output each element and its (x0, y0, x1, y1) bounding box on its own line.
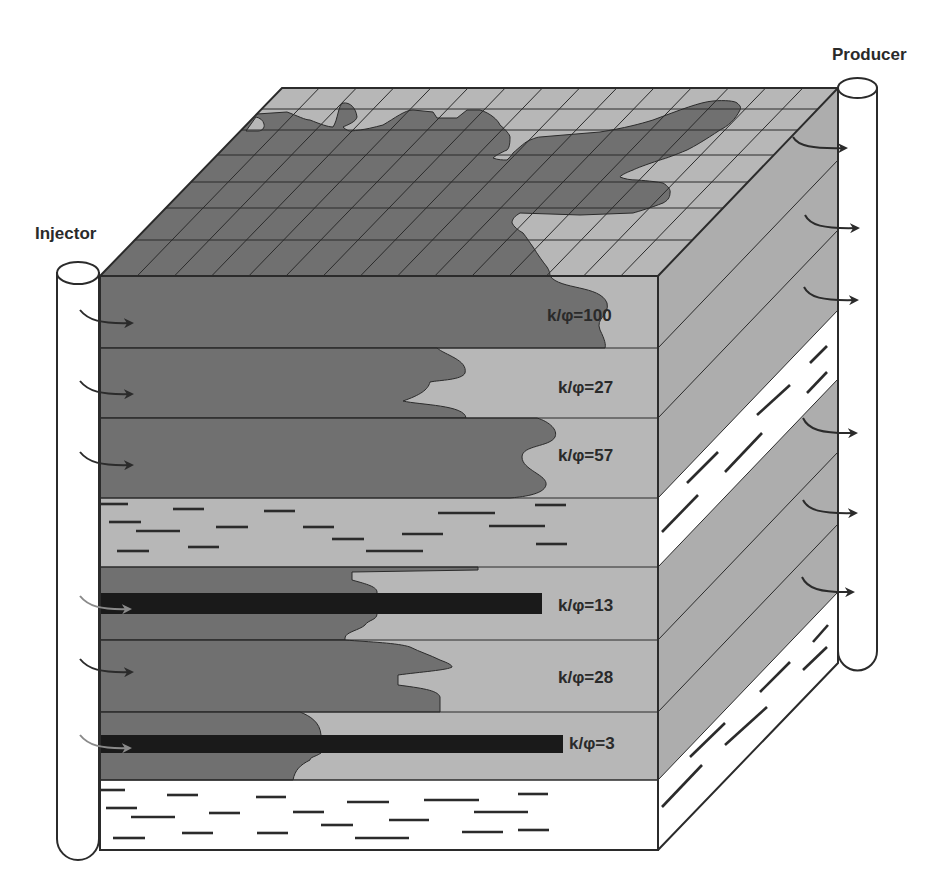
injector-label: Injector (35, 224, 97, 243)
injector-pipe-body (57, 273, 99, 860)
swept-region-layer-1 (100, 276, 607, 348)
layer-5-kphi-label: k/φ=13 (558, 596, 613, 615)
producer-pipe-body (838, 88, 877, 671)
swept-region-layer-2 (100, 348, 466, 418)
flow-barrier-layer-5 (100, 593, 542, 614)
layer-7-kphi-label: k/φ=3 (569, 734, 615, 753)
layer-3-kphi-label: k/φ=57 (558, 446, 613, 465)
producer-well: Producer (832, 45, 907, 671)
layer-2-kphi-label: k/φ=27 (558, 378, 613, 397)
layer-1-kphi-label: k/φ=100 (547, 306, 612, 325)
injector-pipe-top (57, 262, 99, 284)
front-face-shale-layer-8 (100, 780, 658, 850)
producer-pipe-top (838, 78, 877, 98)
swept-region-layer-3 (100, 418, 556, 498)
injector-well: Injector (35, 224, 99, 860)
producer-label: Producer (832, 45, 907, 64)
front-face (100, 276, 658, 850)
layer-6-kphi-label: k/φ=28 (558, 668, 613, 687)
reservoir-block-diagram: Injector Producer k/φ=100 k/φ=27 k/φ=57 … (0, 0, 940, 892)
flow-barrier-layer-7 (100, 735, 563, 753)
